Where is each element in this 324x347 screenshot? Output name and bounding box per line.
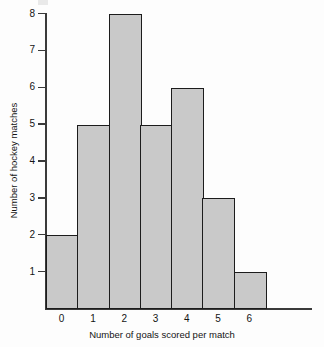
x-axis-title: Number of goals scored per match bbox=[0, 329, 324, 340]
histogram-bar bbox=[77, 125, 110, 309]
y-tick-mark bbox=[38, 50, 46, 51]
histogram-bar bbox=[234, 272, 267, 309]
y-tick-mark bbox=[38, 197, 46, 198]
y-tick-mark bbox=[38, 160, 46, 161]
y-tick-mark bbox=[38, 271, 46, 272]
x-tick-label: 2 bbox=[109, 313, 140, 324]
y-axis-title: Number of hockey matches bbox=[8, 96, 19, 226]
histogram-bar bbox=[171, 88, 204, 309]
x-tick-label: 4 bbox=[171, 313, 202, 324]
y-tick-label-text: 6 bbox=[9, 82, 35, 92]
y-tick-label: 2 bbox=[0, 230, 35, 240]
x-tick-label: 0 bbox=[46, 313, 77, 324]
y-tick-label-text: 1 bbox=[9, 267, 35, 277]
x-tick-label: 5 bbox=[202, 313, 233, 324]
histogram-bar bbox=[109, 14, 142, 309]
y-tick-label-text: 2 bbox=[9, 230, 35, 240]
y-tick-mark bbox=[38, 87, 46, 88]
y-tick-label: 7 bbox=[0, 45, 35, 55]
histogram-bar bbox=[202, 198, 235, 309]
y-tick-label: 6 bbox=[0, 82, 35, 92]
histogram-bar bbox=[46, 235, 79, 309]
x-tick-label: 1 bbox=[77, 313, 108, 324]
histogram-bar bbox=[140, 125, 173, 309]
y-tick-label: 8 bbox=[0, 9, 35, 19]
y-tick-label: 1 bbox=[0, 267, 35, 277]
bars-container bbox=[46, 14, 265, 309]
x-tick-label: 3 bbox=[140, 313, 171, 324]
y-tick-mark bbox=[38, 234, 46, 235]
y-tick-label-text: 8 bbox=[9, 9, 35, 19]
x-tick-label: 6 bbox=[234, 313, 265, 324]
y-tick-mark bbox=[38, 123, 46, 124]
histogram-chart: 12345678 0123456 Number of goals scored … bbox=[0, 0, 324, 347]
y-tick-mark bbox=[38, 13, 46, 14]
page-scan-artifact bbox=[38, 0, 48, 5]
y-tick-label-text: 7 bbox=[9, 45, 35, 55]
